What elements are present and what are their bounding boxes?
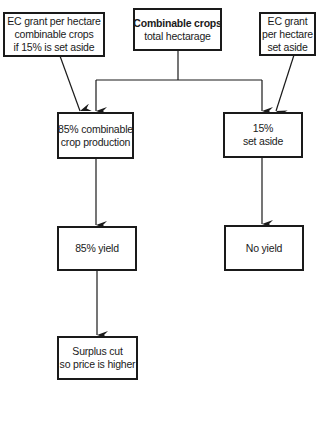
node-crop-production: 85% combinable crop production bbox=[57, 112, 134, 159]
node-text: total hectarage bbox=[144, 30, 210, 43]
node-text: crop production bbox=[61, 136, 130, 149]
node-text: Surplus cut bbox=[72, 345, 122, 358]
connector-lines bbox=[0, 0, 327, 427]
node-text: set aside bbox=[267, 41, 307, 54]
node-text: if 15% is set aside bbox=[14, 41, 95, 54]
node-text: so price is higher bbox=[60, 358, 136, 371]
node-text: combinable crops bbox=[14, 28, 93, 41]
node-ec-grant-combinable: EC grant per hectare combinable crops if… bbox=[3, 12, 105, 57]
node-text: 85% combinable bbox=[58, 123, 133, 136]
node-ec-grant-setaside: EC grant per hectare set aside bbox=[259, 12, 316, 56]
node-text: per hectare bbox=[262, 28, 313, 41]
node-surplus-cut: Surplus cut so price is higher bbox=[57, 336, 138, 380]
node-text: EC grant per hectare bbox=[7, 15, 100, 28]
node-no-yield: No yield bbox=[224, 225, 304, 271]
node-text: Combinable crops bbox=[133, 17, 221, 30]
node-yield-85: 85% yield bbox=[57, 226, 137, 271]
node-text: 15% bbox=[253, 122, 273, 135]
node-text: set aside bbox=[243, 135, 283, 148]
node-text: No yield bbox=[246, 242, 282, 255]
node-text: EC grant bbox=[268, 15, 308, 28]
node-combinable-total: Combinable crops total hectarage bbox=[133, 8, 222, 51]
node-set-aside: 15% set aside bbox=[223, 112, 303, 158]
arrow-ec-setaside-to-setaside bbox=[276, 55, 294, 111]
arrow-ec-grant-to-production bbox=[60, 56, 80, 111]
node-text: 85% yield bbox=[75, 242, 119, 255]
